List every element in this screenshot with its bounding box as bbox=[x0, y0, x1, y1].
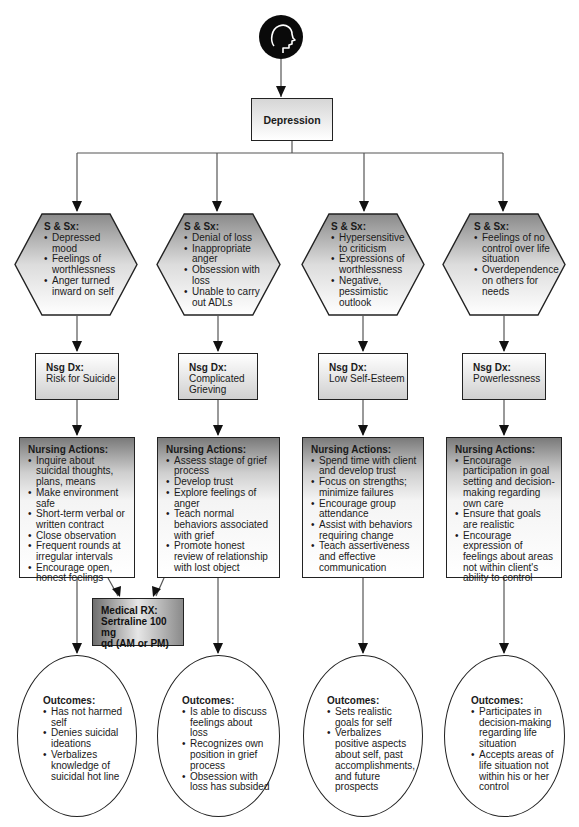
symptom-item: Anger turned inward on self bbox=[44, 276, 126, 298]
root-label: Depression bbox=[263, 114, 320, 126]
outcomes-ellipse-suicide: Outcomes: Has not harmed self Denies sui… bbox=[17, 655, 137, 817]
action-item: Encourage participation in goal setting … bbox=[455, 456, 557, 510]
action-item: Explore feelings of anger bbox=[166, 488, 275, 509]
outcome-item: Verbalizes knowledge of suicidal hot lin… bbox=[43, 750, 123, 782]
diagnosis-title: Nsg Dx: bbox=[329, 362, 407, 373]
root-node-depression: Depression bbox=[251, 98, 333, 141]
nursing-diagnosis-box-powerlessness: Nsg Dx: Powerlessness bbox=[462, 353, 546, 400]
symptom-item: Denial of loss bbox=[184, 233, 269, 244]
diagnosis-value: Powerlessness bbox=[473, 373, 545, 384]
outcome-item: Accepts areas of life situation not with… bbox=[471, 750, 555, 793]
outcome-item: Is able to discuss feelings about loss bbox=[182, 707, 270, 739]
nursing-diagnosis-box-grieving: Nsg Dx: Complicated Grieving bbox=[178, 353, 258, 400]
action-item: Encourage group attendance bbox=[311, 499, 419, 520]
symptoms-hexagon-self-esteem: S & Sx: Hypersensitive to criticism Expr… bbox=[301, 213, 425, 316]
action-item: Encourage open, honest feelings bbox=[28, 563, 130, 584]
nursing-diagnosis-box-self-esteem: Nsg Dx: Low Self-Esteem bbox=[318, 353, 408, 400]
action-item: Spend time with client and develop trust bbox=[311, 456, 419, 477]
symptom-item: Overdependence on others for needs bbox=[474, 265, 554, 297]
outcome-item: Recognizes own position in grief process bbox=[182, 739, 270, 771]
action-item: Focus on strengths; minimize failures bbox=[311, 477, 419, 498]
medical-rx-box: Medical RX: Sertraline 100 mg qd (AM or … bbox=[92, 598, 184, 646]
symptoms-hexagon-powerlessness: S & Sx: Feelings of no control over life… bbox=[442, 213, 566, 316]
medical-rx-dosing: qd (AM or PM) bbox=[101, 638, 183, 649]
diagnosis-value: Low Self-Esteem bbox=[329, 373, 407, 384]
action-item: Assist with behaviors requiring change bbox=[311, 520, 419, 541]
nursing-actions-box-powerlessness: Nursing Actions: Encourage participation… bbox=[446, 437, 562, 578]
outcome-item: Verbalizes positive aspects about self, … bbox=[327, 728, 413, 793]
symptoms-hexagon-suicide: S & Sx: Depressed mood Feelings of worth… bbox=[14, 213, 138, 316]
diagnosis-title: Nsg Dx: bbox=[473, 362, 545, 373]
diagnosis-title: Nsg Dx: bbox=[189, 362, 257, 373]
action-item: Teach normal behaviors associated with g… bbox=[166, 509, 275, 541]
head-profile-icon bbox=[259, 15, 303, 59]
action-item: Encourage expression of feelings about a… bbox=[455, 531, 557, 585]
outcomes-ellipse-grieving: Outcomes: Is able to discuss feelings ab… bbox=[157, 655, 280, 817]
action-item: Promote honest review of relationship wi… bbox=[166, 541, 275, 573]
action-item: Teach assertiveness and effective commun… bbox=[311, 541, 419, 573]
symptom-item: Feelings of worthlessness bbox=[44, 254, 126, 276]
diagnosis-value: Complicated Grieving bbox=[189, 373, 249, 395]
nursing-actions-box-grieving: Nursing Actions: Assess stage of grief p… bbox=[157, 437, 280, 578]
outcome-item: Obsession with loss has subsided bbox=[182, 772, 270, 794]
action-item: Frequent rounds at irregular intervals bbox=[28, 541, 130, 562]
symptom-item: Inappropriate anger bbox=[184, 244, 269, 266]
nursing-diagnosis-box-suicide: Nsg Dx: Risk for Suicide bbox=[35, 353, 119, 400]
diagnosis-value: Risk for Suicide bbox=[46, 373, 118, 384]
medical-rx-title: Medical RX: bbox=[101, 605, 183, 616]
action-item: Ensure that goals are realistic bbox=[455, 509, 557, 530]
nursing-actions-box-self-esteem: Nursing Actions: Spend time with client … bbox=[302, 437, 424, 578]
action-item: Short-term verbal or written contract bbox=[28, 509, 130, 530]
action-item: Make environment safe bbox=[28, 488, 130, 509]
symptoms-hexagon-grieving: S & Sx: Denial of loss Inappropriate ang… bbox=[156, 213, 281, 316]
outcomes-ellipse-powerlessness: Outcomes: Participates in decision-makin… bbox=[444, 655, 565, 817]
diagnosis-title: Nsg Dx: bbox=[46, 362, 118, 373]
outcome-item: Participates in decision-making regardin… bbox=[471, 707, 555, 750]
symptom-item: Feelings of no control over life situati… bbox=[474, 233, 554, 265]
outcome-item: Sets realistic goals for self bbox=[327, 707, 413, 729]
action-item: Assess stage of grief process bbox=[166, 456, 275, 477]
symptom-item: Obsession with loss bbox=[184, 265, 269, 287]
action-item: Inquire about suicidal thoughts, plans, … bbox=[28, 456, 130, 488]
outcome-item: Has not harmed self bbox=[43, 707, 123, 729]
symptom-item: Depressed mood bbox=[44, 233, 126, 255]
nursing-actions-box-suicide: Nursing Actions: Inquire about suicidal … bbox=[19, 437, 135, 578]
symptom-item: Expressions of worthlessness bbox=[331, 254, 413, 276]
medical-rx-drug: Sertraline 100 mg bbox=[101, 616, 183, 638]
symptom-item: Negative, pessimistic outlook bbox=[331, 276, 413, 308]
outcome-item: Denies suicidal ideations bbox=[43, 728, 123, 750]
symptom-item: Hypersensitive to criticism bbox=[331, 233, 413, 255]
outcomes-ellipse-self-esteem: Outcomes: Sets realistic goals for self … bbox=[303, 655, 423, 817]
symptom-item: Unable to carry out ADLs bbox=[184, 287, 269, 309]
